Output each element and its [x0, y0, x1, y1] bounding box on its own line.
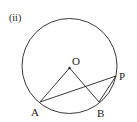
circle	[22, 19, 117, 114]
chord-BP	[99, 76, 116, 102]
radius-OB	[70, 68, 100, 102]
point-label-B: B	[97, 107, 104, 119]
circle-diagram: (ii) O A B P	[0, 0, 137, 122]
point-label-O: O	[72, 55, 80, 67]
point-label-A: A	[31, 106, 39, 118]
point-label-P: P	[119, 70, 125, 82]
figure-label: (ii)	[9, 12, 21, 24]
center-point	[68, 67, 70, 69]
